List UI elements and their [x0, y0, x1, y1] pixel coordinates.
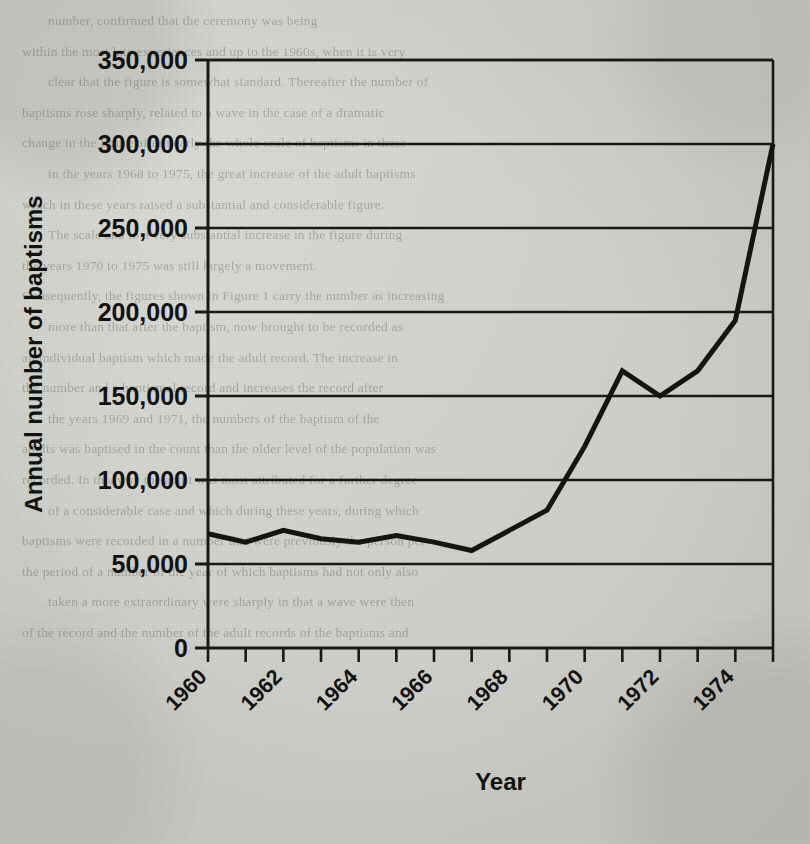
x-tick-label: 1972 — [613, 665, 664, 716]
baptisms-line-chart: 050,000100,000150,000200,000250,000300,0… — [0, 0, 810, 844]
y-tick-label: 150,000 — [98, 382, 188, 410]
x-axis-ticks — [208, 648, 773, 662]
x-axis-tick-labels: 19601962196419661968197019721974 — [161, 665, 739, 716]
x-tick-label: 1974 — [688, 665, 739, 716]
x-tick-label: 1968 — [462, 665, 513, 716]
y-tick-label: 50,000 — [112, 550, 188, 578]
y-tick-label: 0 — [174, 634, 188, 662]
x-tick-label: 1964 — [311, 665, 362, 716]
scanned-page: number, confirmed that the ceremony was … — [0, 0, 810, 844]
y-axis-tick-labels: 050,000100,000150,000200,000250,000300,0… — [98, 46, 188, 662]
x-axis-title: Year — [475, 768, 526, 795]
y-tick-label: 100,000 — [98, 466, 188, 494]
x-tick-label: 1970 — [537, 665, 588, 716]
y-axis-ticks — [195, 60, 208, 648]
y-tick-label: 200,000 — [98, 298, 188, 326]
y-tick-label: 350,000 — [98, 46, 188, 74]
y-tick-label: 250,000 — [98, 214, 188, 242]
plot-frame — [208, 59, 773, 648]
y-axis-title: Annual number of baptisms — [20, 195, 47, 512]
x-tick-label: 1966 — [387, 665, 438, 716]
x-tick-label: 1960 — [161, 665, 212, 716]
chart-canvas: 050,000100,000150,000200,000250,000300,0… — [0, 0, 810, 844]
y-tick-label: 300,000 — [98, 130, 188, 158]
y-gridlines — [208, 60, 773, 564]
baptisms-data-line — [208, 144, 773, 551]
x-tick-label: 1962 — [236, 665, 287, 716]
